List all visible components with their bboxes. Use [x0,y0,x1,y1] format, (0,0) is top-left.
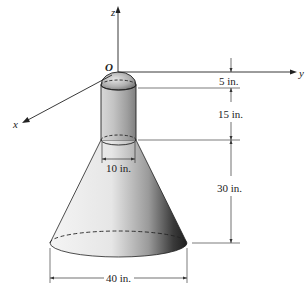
cylinder-height-label: 15 in. [218,108,243,120]
cylinder [101,85,136,145]
cone-height-label: 30 in. [217,182,242,194]
z-arrow-icon [116,6,121,13]
x-arrow-icon [22,117,30,123]
x-axis-label: x [12,118,18,130]
y-arrow-icon [290,70,297,75]
x-axis [26,75,112,121]
cylinder-diameter-label: 10 in. [106,162,131,174]
cone [50,140,187,257]
hemisphere-cap [101,72,136,90]
origin-label: O [105,61,113,73]
diagram-canvas: z y x O 5 in. 15 in. 30 in. 10 in. [0,0,306,298]
z-axis-label: z [110,6,116,18]
cap-height-label: 5 in. [219,75,239,87]
base-diameter-label: 40 in. [106,272,131,284]
axes [22,6,297,123]
y-axis-label: y [298,67,304,79]
